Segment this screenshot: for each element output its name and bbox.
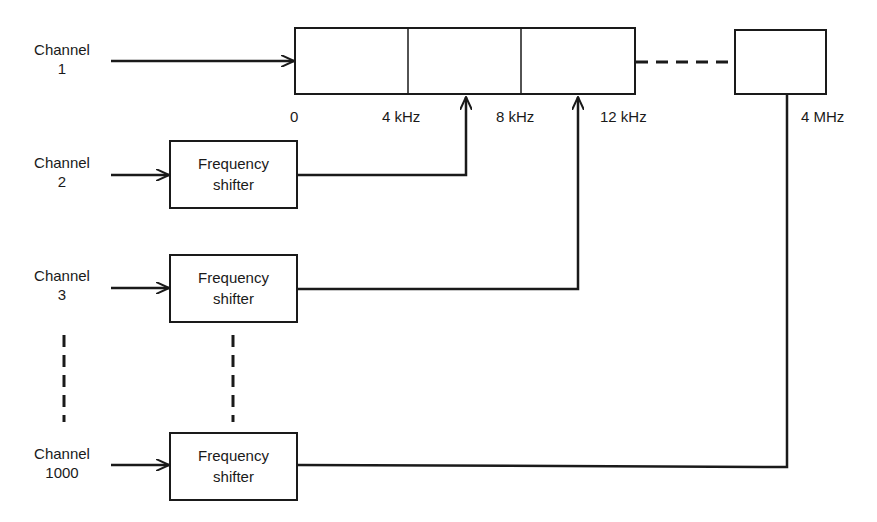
channel-label-word: Channel	[7, 153, 117, 172]
channel-label-word: Channel	[7, 266, 117, 285]
fdm-diagram	[0, 0, 877, 522]
channel-2-label: Channel 2	[7, 153, 117, 191]
frequency-shifter-1000-label: Frequency shifter	[170, 445, 297, 487]
freq-tick-12khz: 12 kHz	[600, 108, 647, 125]
shifter-1000-output-line	[297, 95, 787, 467]
frequency-shifter-3-label: Frequency shifter	[170, 267, 297, 309]
channel-label-number: 1	[7, 59, 117, 78]
freq-tick-4mhz: 4 MHz	[801, 108, 844, 125]
channel-1000-label: Channel 1000	[7, 444, 117, 482]
shifter-label-line2: shifter	[170, 288, 297, 309]
channel-label-word: Channel	[7, 444, 117, 463]
shifter-label-line2: shifter	[170, 466, 297, 487]
channel-label-word: Channel	[7, 40, 117, 59]
shifter-label-line1: Frequency	[170, 267, 297, 288]
frequency-shifter-2-label: Frequency shifter	[170, 153, 297, 195]
freq-tick-8khz: 8 kHz	[496, 108, 534, 125]
shifter-label-line1: Frequency	[170, 445, 297, 466]
shifter-3-output-line	[297, 97, 578, 289]
channel-label-number: 1000	[7, 463, 117, 482]
freq-tick-0: 0	[290, 108, 298, 125]
shifter-label-line2: shifter	[170, 174, 297, 195]
shifter-label-line1: Frequency	[170, 153, 297, 174]
channel-label-number: 3	[7, 285, 117, 304]
spectrum-band-box	[295, 28, 635, 94]
channel-label-number: 2	[7, 172, 117, 191]
channel-1-label: Channel 1	[7, 40, 117, 78]
channel-3-label: Channel 3	[7, 266, 117, 304]
freq-tick-4khz: 4 kHz	[382, 108, 420, 125]
last-band-box	[735, 30, 826, 94]
